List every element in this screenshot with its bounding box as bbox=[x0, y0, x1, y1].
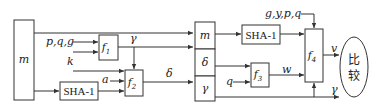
label-v: v bbox=[331, 42, 338, 55]
label-delta: δ bbox=[166, 67, 173, 80]
label-w: w bbox=[282, 63, 292, 76]
label-k: k bbox=[67, 55, 74, 68]
col-gamma-label: γ bbox=[202, 82, 209, 95]
sha1-left-box: SHA-1 bbox=[60, 82, 98, 100]
f1-box: f1 bbox=[99, 35, 118, 60]
label-gamma-f1: γ bbox=[130, 32, 137, 45]
sha1-right-box: SHA-1 bbox=[242, 25, 280, 44]
sha1-left-label: SHA-1 bbox=[63, 85, 94, 97]
signature-column: m δ γ bbox=[195, 22, 215, 101]
col-m-label: m bbox=[200, 29, 210, 42]
arrow-gypq-to-f4 bbox=[301, 14, 314, 28]
label-gypq: g,y,p,q bbox=[265, 7, 301, 20]
label-gamma-out: γ bbox=[331, 83, 338, 96]
message-box: m bbox=[14, 20, 34, 100]
compare-label-bottom: 较 bbox=[348, 68, 360, 83]
label-pqg: p,q,g bbox=[46, 35, 74, 48]
f4-box: f4 bbox=[305, 29, 323, 82]
sha1-right-label: SHA-1 bbox=[245, 29, 276, 41]
compare-label-top: 比 bbox=[348, 53, 360, 67]
f3-box: f3 bbox=[251, 63, 269, 87]
col-delta-label: δ bbox=[202, 56, 209, 69]
message-label: m bbox=[19, 53, 29, 66]
compare-node: 比 较 bbox=[340, 37, 368, 97]
label-q: q bbox=[226, 75, 233, 88]
label-a: a bbox=[102, 73, 109, 86]
f2-box: f2 bbox=[125, 70, 143, 96]
diagram-canvas: m p,q,g f1 γ k a SHA-1 f2 δ m δ γ bbox=[0, 0, 379, 112]
